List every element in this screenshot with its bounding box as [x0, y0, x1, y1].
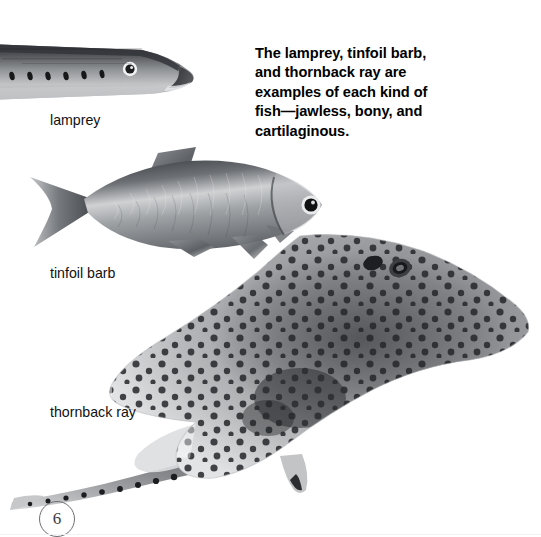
caption-line-3: examples of each kind of	[255, 83, 445, 102]
scan-edge-line	[0, 534, 541, 535]
caption-text: The lamprey, tinfoil barb, and thornback…	[255, 44, 445, 141]
caption-line-2: and thornback ray are	[255, 63, 445, 82]
lamprey-illustration	[0, 36, 207, 110]
label-lamprey: lamprey	[50, 112, 100, 128]
barb-eye	[302, 196, 321, 215]
caption-line-1: The lamprey, tinfoil barb,	[255, 44, 445, 63]
ray-pelvic-fin	[280, 454, 307, 493]
caption-line-4: fish—jawless, bony, and	[255, 102, 445, 121]
label-tinfoil-barb: tinfoil barb	[50, 265, 115, 281]
book-page: The lamprey, tinfoil barb, and thornback…	[0, 0, 541, 537]
caption-line-5: cartilaginous.	[255, 122, 445, 141]
page-number: 6	[39, 501, 75, 537]
lamprey-photo	[0, 36, 207, 110]
label-thornback-ray: thornback ray	[50, 404, 136, 420]
